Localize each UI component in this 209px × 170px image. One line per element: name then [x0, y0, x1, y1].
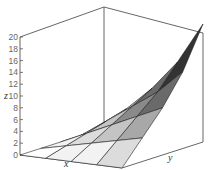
x-axis-label: x — [63, 158, 69, 169]
z-tick-label: 0 — [13, 150, 18, 160]
z-tick-label: 14 — [9, 67, 19, 77]
surface-plot: 02468101214161820 z x y — [0, 0, 209, 170]
z-axis-label: z — [3, 90, 8, 101]
z-tick-label: 20 — [9, 32, 19, 42]
z-tick-label: 6 — [13, 115, 18, 125]
z-tick-label: 16 — [9, 56, 19, 66]
z-tick-label: 8 — [13, 103, 18, 113]
z-tick-label: 2 — [13, 138, 18, 148]
z-tick-label: 12 — [9, 79, 19, 89]
z-tick-label: 10 — [9, 91, 19, 101]
surface-mesh — [20, 24, 203, 168]
z-tick-label: 4 — [13, 126, 18, 136]
z-axis-ticks: 02468101214161820 — [9, 32, 23, 160]
z-tick-label: 18 — [9, 44, 19, 54]
y-axis-label: y — [167, 152, 173, 163]
